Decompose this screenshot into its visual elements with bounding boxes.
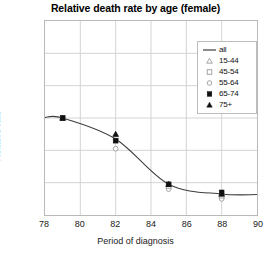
legend-item: 65-74: [201, 88, 253, 99]
legend-label: 55-64: [218, 78, 238, 87]
legend-label: 75+: [218, 100, 232, 109]
legend-marker-triangle-filled-icon: [201, 100, 218, 110]
legend-item: 75+: [201, 99, 253, 110]
legend-marker-line-icon: [201, 45, 218, 55]
legend-marker-square-filled-icon: [201, 89, 218, 99]
legend-item: all: [201, 44, 253, 55]
legend-item: 15-44: [201, 55, 253, 66]
legend-label: 45-54: [218, 67, 238, 76]
chart-title: Relative death rate by age (female): [0, 2, 271, 14]
legend-marker-triangle-open-icon: [201, 56, 218, 66]
chart-legend: all15-4445-5455-6465-7475+: [197, 41, 257, 114]
legend-label: 15-44: [218, 56, 238, 65]
legend-label: 65-74: [218, 89, 238, 98]
x-tick-label: 86: [172, 219, 202, 229]
y-axis-label: Relative rate: [0, 110, 2, 161]
legend-item: 55-64: [201, 77, 253, 88]
chart-container: Relative death rate by age (female) 0.40…: [0, 0, 271, 261]
x-tick-label: 84: [136, 219, 166, 229]
legend-marker-circle-open-icon: [201, 78, 218, 88]
x-tick-label: 82: [100, 219, 130, 229]
x-axis-label: Period of diagnosis: [0, 236, 271, 246]
x-tick-label: 80: [65, 219, 95, 229]
x-tick-label: 90: [243, 219, 271, 229]
x-tick-label: 78: [29, 219, 59, 229]
legend-item: 45-54: [201, 66, 253, 77]
legend-label: all: [218, 45, 226, 54]
x-tick-label: 88: [207, 219, 237, 229]
legend-marker-square-open-icon: [201, 67, 218, 77]
